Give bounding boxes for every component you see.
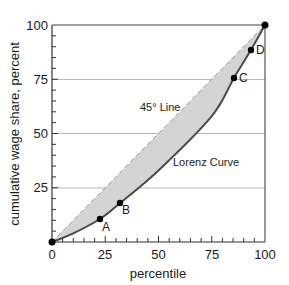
x-tick-label-75: 75 (205, 247, 219, 262)
x-axis-title: percentile (130, 266, 186, 281)
x-tick-label-0: 0 (48, 247, 55, 262)
x-tick-label-50: 50 (151, 247, 165, 262)
point-c-label: C (239, 71, 248, 85)
point-b-label: B (122, 203, 130, 217)
y-axis-title: cumulative wage share, percent (7, 42, 22, 226)
x-tick-label-25: 25 (98, 247, 112, 262)
y-tick-label-50: 50 (34, 126, 48, 141)
chart-svg: 0 25 50 75 100 25 50 75 100 percentile c… (0, 0, 289, 285)
point-a-label: A (102, 220, 110, 234)
point-end (262, 22, 269, 29)
point-d-label: D (256, 43, 265, 57)
lorenz-chart: 0 25 50 75 100 25 50 75 100 percentile c… (0, 0, 289, 285)
lorenz-curve-label: Lorenz Curve (173, 156, 239, 168)
point-d (248, 47, 254, 53)
y-tick-label-75: 75 (34, 72, 48, 87)
y-tick-label-100: 100 (26, 18, 48, 33)
x-ticks (63, 236, 255, 242)
equality-line-label: 45° Line (140, 101, 181, 113)
point-origin (49, 239, 56, 246)
y-ticks (52, 36, 58, 231)
point-c (231, 75, 237, 81)
y-tick-label-25: 25 (34, 180, 48, 195)
x-tick-label-100: 100 (254, 247, 276, 262)
